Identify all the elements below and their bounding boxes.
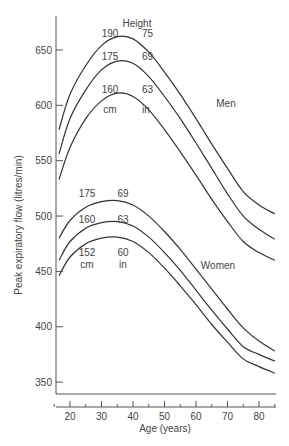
x-tick-label: 20	[64, 411, 76, 422]
women-152-cm: 152	[79, 247, 96, 258]
x-tick-label: 30	[96, 411, 108, 422]
men-in-unit: in	[142, 104, 150, 115]
y-ticks: 350400450500550600650	[35, 45, 63, 388]
x-tick-label: 80	[253, 411, 265, 422]
women-175-in: 69	[117, 188, 129, 199]
women-in-unit: in	[119, 259, 127, 270]
series-line-women-160-cm-63-in	[59, 221, 275, 361]
y-tick-label: 500	[35, 211, 52, 222]
women-175-cm: 175	[79, 188, 96, 199]
women-160-cm: 160	[79, 214, 96, 225]
men-190-in: 75	[142, 28, 154, 39]
peak-flow-chart: 350400450500550600650 20304050607080 Pea…	[0, 0, 289, 446]
x-tick-label: 50	[159, 411, 171, 422]
men-160-cm: 160	[102, 84, 119, 95]
men-175-in: 69	[142, 51, 154, 62]
series-line-men-175-cm-69-in	[59, 61, 275, 240]
y-axis-label: Peak expiratory flow (litres/min)	[13, 155, 24, 294]
series-line-men-160-cm-63-in	[59, 93, 275, 260]
men-cm-unit: cm	[103, 104, 116, 115]
curves	[59, 36, 275, 373]
y-tick-label: 650	[35, 45, 52, 56]
women-label: Women	[201, 260, 235, 271]
y-tick-label: 400	[35, 321, 52, 332]
x-ticks: 20304050607080	[54, 401, 275, 422]
y-tick-label: 600	[35, 100, 52, 111]
x-tick-label: 40	[127, 411, 139, 422]
men-160-in: 63	[142, 84, 154, 95]
y-tick-label: 350	[35, 377, 52, 388]
x-tick-label: 60	[190, 411, 202, 422]
women-160-in: 63	[117, 214, 129, 225]
y-tick-label: 550	[35, 155, 52, 166]
women-152-in: 60	[117, 247, 129, 258]
men-190-cm: 190	[102, 28, 119, 39]
men-label: Men	[216, 98, 235, 109]
men-175-cm: 175	[102, 51, 119, 62]
women-cm-unit: cm	[80, 259, 93, 270]
x-axis-label: Age (years)	[139, 423, 191, 434]
y-tick-label: 450	[35, 266, 52, 277]
x-tick-label: 70	[222, 411, 234, 422]
